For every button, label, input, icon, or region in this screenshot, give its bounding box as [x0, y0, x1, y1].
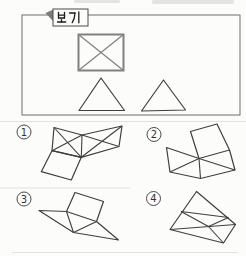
- option1-net-inner-line: [81, 135, 82, 157]
- option2-number: 2: [151, 129, 157, 140]
- scan-smudge: [152, 0, 234, 4]
- scan-smudge: [74, 0, 120, 3]
- bogi-glyph-strokes: [58, 12, 79, 23]
- worksheet-scan: 1234: [0, 0, 246, 256]
- bogi-example-label: [53, 9, 88, 26]
- option3-number: 3: [21, 194, 27, 205]
- option4-number: 4: [150, 193, 156, 204]
- option1-number: 1: [21, 127, 27, 138]
- figure-canvas: 1234: [0, 0, 246, 256]
